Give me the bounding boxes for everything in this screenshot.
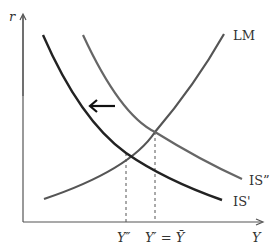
left-arrow-icon xyxy=(90,100,115,112)
is-prime-label: IS' xyxy=(233,194,251,209)
x-axis-label: Y xyxy=(252,230,262,245)
tick-label-y-prime-equals-y-bar: Y′ = Ȳ xyxy=(145,230,186,245)
diagram-svg: r Y LM IS” IS' Y″ Y′ = Ȳ xyxy=(0,0,280,252)
axes xyxy=(20,14,263,225)
lm-label: LM xyxy=(233,28,255,43)
is-lm-diagram: r Y LM IS” IS' Y″ Y′ = Ȳ xyxy=(0,0,280,252)
tick-label-y-double-prime: Y″ xyxy=(117,230,131,245)
is-double-prime-label: IS” xyxy=(249,173,270,188)
is-prime-curve xyxy=(43,35,222,200)
y-axis-label: r xyxy=(9,9,16,24)
